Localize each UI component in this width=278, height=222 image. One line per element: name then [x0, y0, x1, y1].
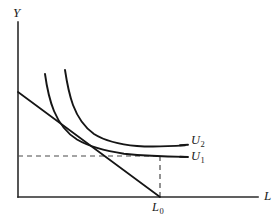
u2-subscript: 2 — [201, 139, 205, 149]
indifference-curve-figure: Y L L0 U2 U1 — [0, 0, 278, 222]
indifference-curve-u2 — [65, 70, 185, 147]
l0-subscript: 0 — [159, 206, 163, 216]
l0-base: L — [152, 200, 159, 214]
x-axis-label: L — [264, 189, 271, 202]
figure-canvas — [0, 0, 278, 222]
u1-subscript: 1 — [201, 155, 205, 165]
y-axis-label: Y — [13, 6, 20, 19]
u1-base: U — [191, 149, 200, 163]
indifference-curve-u1 — [45, 74, 185, 157]
curve-label-u1: U1 — [191, 150, 204, 163]
u2-base: U — [191, 133, 200, 147]
curve-label-u2: U2 — [191, 134, 204, 147]
x-axis-tick-label-l0: L0 — [152, 201, 163, 214]
